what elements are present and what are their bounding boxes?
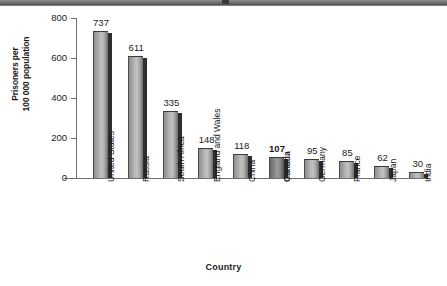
- y-axis-tick-mark: [71, 138, 76, 139]
- x-axis-category-label: Canada: [281, 151, 293, 182]
- y-axis-tick-mark: [71, 18, 76, 19]
- y-axis-tick: 200: [76, 138, 77, 139]
- bar-value-label: 118: [222, 141, 262, 151]
- x-axis-title: Country: [0, 262, 447, 272]
- y-axis-tick-label: 0: [33, 173, 67, 183]
- x-axis-category-label: China: [246, 160, 258, 182]
- x-axis-category-label: Russia: [140, 156, 152, 182]
- y-axis-tick: 400: [76, 98, 77, 99]
- y-axis-tick-label: 200: [33, 133, 67, 143]
- y-axis-tick: 800: [76, 18, 77, 19]
- top-band-notch: [222, 0, 229, 4]
- x-axis-category-label: France: [351, 156, 363, 182]
- x-axis-category-label: England and Wales: [211, 109, 223, 182]
- y-axis-title: Prisoners per 100 000 population: [1, 14, 41, 134]
- y-axis-tick: 600: [76, 58, 77, 59]
- y-axis-tick-label: 800: [33, 13, 67, 23]
- y-axis-title-line-2: 100 000 population: [21, 37, 32, 112]
- x-axis-category-label: United States: [105, 131, 117, 182]
- x-axis-category-label: Germany: [316, 147, 328, 182]
- bar-value-label: 737: [81, 18, 121, 28]
- x-axis-category-label: South Africa: [175, 136, 187, 182]
- y-axis-tick-label: 400: [33, 93, 67, 103]
- plot-area: 0200400600800 73761133514811810795856230: [76, 18, 430, 178]
- bar-value-label: 611: [116, 43, 156, 53]
- y-axis-tick-label: 600: [33, 53, 67, 63]
- x-axis-category-label: Japan: [387, 159, 399, 182]
- y-axis-tick-mark: [71, 178, 76, 179]
- x-axis-category-label: India: [422, 164, 434, 182]
- y-axis-title-line-1: Prisoners per: [10, 47, 21, 101]
- y-axis-tick-mark: [71, 58, 76, 59]
- bar-value-label: 335: [151, 98, 191, 108]
- bar-chart-figure: Prisoners per 100 000 population 0200400…: [0, 6, 447, 286]
- y-axis-tick-mark: [71, 98, 76, 99]
- y-axis-tick: 0: [76, 178, 77, 179]
